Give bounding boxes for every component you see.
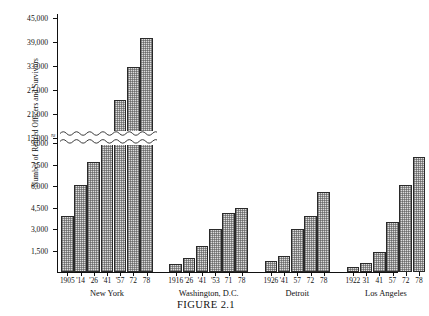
bar	[373, 252, 386, 272]
bar	[265, 261, 278, 272]
bar	[196, 246, 209, 272]
bar	[360, 263, 373, 272]
bar	[278, 256, 291, 272]
bar	[304, 216, 317, 272]
axis-break-mark: ≈	[51, 133, 55, 139]
y-tick-label: 3,000	[31, 225, 48, 234]
group-label: New York	[62, 289, 152, 298]
bar	[127, 67, 140, 272]
group-label: Washington, D.C.	[164, 289, 254, 298]
bar	[183, 258, 196, 272]
bar	[399, 185, 412, 272]
axis-break-squiggle-icon	[60, 130, 157, 144]
y-tick-label: 6,000	[31, 182, 48, 191]
bar	[87, 162, 100, 272]
y-tick-label: 7,500	[31, 161, 48, 170]
x-axis-line	[57, 272, 398, 273]
figure-caption: FIGURE 2.1	[0, 299, 412, 310]
bar	[209, 229, 222, 272]
y-tick-label: 33,000	[27, 62, 48, 71]
bar	[74, 185, 87, 272]
bar	[114, 100, 127, 272]
y-tick-label: 1,500	[31, 247, 48, 256]
y-tick-label: 4,500	[31, 204, 48, 213]
y-tick-label: 39,000	[27, 38, 48, 47]
bar	[61, 216, 74, 272]
y-tick-label: 45,000	[27, 14, 48, 23]
bar	[386, 222, 399, 272]
bar	[101, 144, 114, 272]
bar	[140, 38, 153, 272]
y-tick-label: 21,000	[27, 110, 48, 119]
bar	[222, 213, 235, 272]
x-tick-label: 78	[133, 276, 161, 285]
bar	[413, 157, 426, 272]
y-tick-label: 15,000	[27, 134, 48, 143]
y-tick-label: 27,000	[27, 86, 48, 95]
bar	[317, 192, 330, 272]
bar	[235, 208, 248, 273]
x-tick-label: 78	[405, 276, 429, 285]
bar	[169, 264, 182, 272]
plot-area	[58, 14, 398, 272]
group-label: Los Angeles	[341, 289, 429, 298]
x-tick-label: 78	[228, 276, 256, 285]
x-tick-label: 78	[310, 276, 338, 285]
bar	[291, 229, 304, 272]
group-label: Detroit	[252, 289, 342, 298]
